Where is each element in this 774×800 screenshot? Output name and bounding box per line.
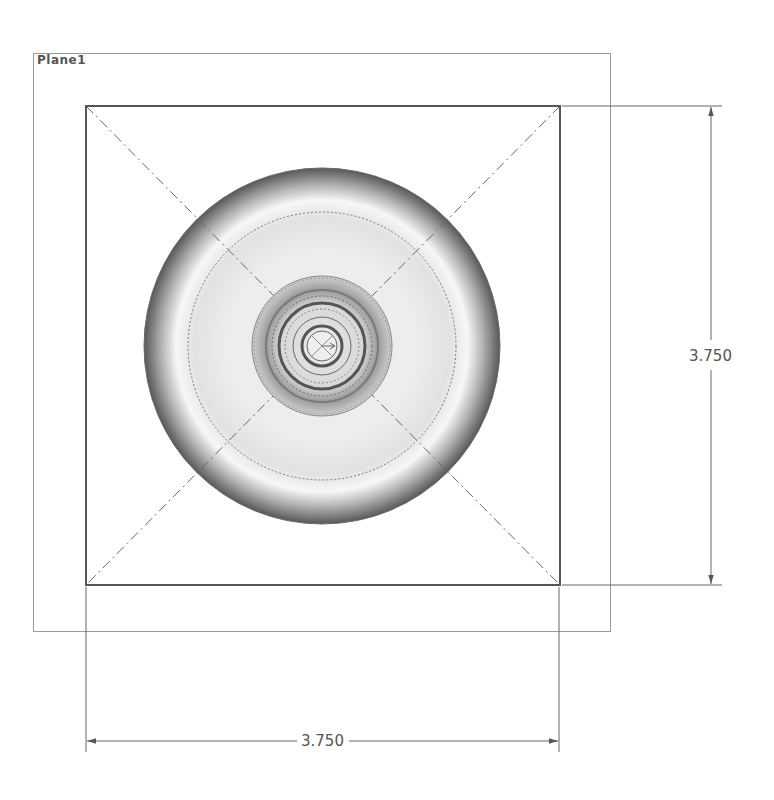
horizontal-dimension[interactable] [86, 587, 559, 752]
sketch-canvas[interactable] [0, 0, 774, 800]
horizontal-dimension-value[interactable]: 3.750 [299, 733, 346, 749]
plane-label: Plane1 [37, 53, 86, 67]
center-hub[interactable] [252, 276, 392, 416]
vertical-dimension-value[interactable]: 3.750 [688, 348, 733, 364]
vertical-dimension[interactable] [562, 106, 722, 585]
